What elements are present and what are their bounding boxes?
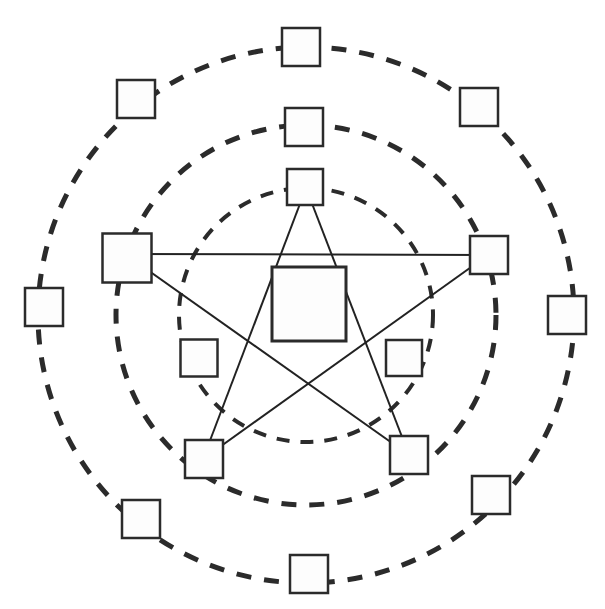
inner-node-bl[interactable] bbox=[181, 340, 218, 377]
center-node-layer bbox=[272, 267, 346, 341]
mid-node-right[interactable] bbox=[470, 236, 508, 274]
outer-node-wsw[interactable] bbox=[25, 288, 63, 326]
outer-node-wnw[interactable] bbox=[117, 80, 155, 118]
outer-node-nne[interactable] bbox=[460, 88, 498, 126]
outer-node-sse[interactable] bbox=[290, 555, 328, 593]
diagram-canvas bbox=[0, 0, 605, 609]
outer-node-ese[interactable] bbox=[472, 476, 510, 514]
inner-node-br[interactable] bbox=[386, 340, 422, 376]
mid-node-left[interactable] bbox=[103, 234, 152, 283]
mid-node-br[interactable] bbox=[390, 436, 428, 474]
outer-node-ene[interactable] bbox=[548, 296, 586, 334]
outer-node-ssw[interactable] bbox=[122, 500, 160, 538]
pentagram-edge-bottom-right-to-left bbox=[125, 254, 409, 455]
concentric-ring-pentagram-diagram bbox=[0, 0, 605, 609]
mid-node-top[interactable] bbox=[285, 108, 323, 146]
pentagram-edge-left-to-right bbox=[125, 254, 488, 255]
center-node[interactable] bbox=[272, 267, 346, 341]
outer-node-n[interactable] bbox=[282, 28, 320, 66]
inner-node-top[interactable] bbox=[287, 169, 323, 205]
mid-node-bl[interactable] bbox=[185, 440, 223, 478]
